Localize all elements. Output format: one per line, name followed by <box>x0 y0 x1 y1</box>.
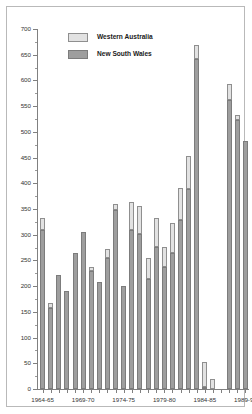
y-axis-label: 700 <box>21 26 31 32</box>
bar-segment-new-south-wales <box>81 232 86 389</box>
bar-segment-western-australia <box>186 156 191 190</box>
bar-column <box>243 29 248 389</box>
y-axis-label: 650 <box>21 52 31 58</box>
bar-column <box>137 29 142 389</box>
y-axis-label: 0 <box>28 386 31 392</box>
y-axis-tick <box>33 389 37 390</box>
bar-column <box>81 29 86 389</box>
y-axis-minor-tick <box>35 299 37 300</box>
bar-segment-western-australia <box>210 379 215 389</box>
x-axis-tick <box>164 390 165 393</box>
bar-column <box>154 29 159 389</box>
y-axis-minor-tick <box>35 145 37 146</box>
y-axis-label: 100 <box>21 334 31 340</box>
bar-segment-new-south-wales <box>170 253 175 389</box>
y-axis-label: 600 <box>21 77 31 83</box>
bar-column <box>64 29 69 389</box>
x-axis-tick <box>51 390 52 393</box>
bar-column <box>121 29 126 389</box>
x-axis-tick <box>197 390 198 393</box>
y-axis-minor-tick <box>35 119 37 120</box>
bar-column <box>97 29 102 389</box>
y-axis-tick <box>33 29 37 30</box>
bar-column <box>113 29 118 389</box>
bar-segment-western-australia <box>227 84 232 100</box>
x-axis-tick <box>132 390 133 393</box>
bar-segment-new-south-wales <box>186 189 191 389</box>
x-axis-label: 1984-85 <box>194 397 217 403</box>
y-axis-label: 300 <box>21 232 31 238</box>
x-axis-line <box>37 389 249 390</box>
bar-segment-new-south-wales <box>146 279 151 389</box>
y-axis-label: 500 <box>21 129 31 135</box>
chart-figure: Western Australia New South Wales 050100… <box>0 0 252 414</box>
bar-column <box>194 29 199 389</box>
x-axis-tick <box>107 390 108 393</box>
y-axis-label: 400 <box>21 180 31 186</box>
y-axis-minor-tick <box>35 350 37 351</box>
bar-column <box>56 29 61 389</box>
y-axis-minor-tick <box>35 93 37 94</box>
y-axis-label: 200 <box>21 283 31 289</box>
x-axis-label: 1974-75 <box>112 397 135 403</box>
plot-area: 0501001502002503003504004505005506006507… <box>37 29 248 389</box>
bar-segment-western-australia <box>178 188 183 220</box>
bar-column <box>146 29 151 389</box>
x-axis-label: 1964-65 <box>31 397 54 403</box>
y-axis-tick <box>33 338 37 339</box>
bar-column <box>105 29 110 389</box>
bar-column <box>235 29 240 389</box>
y-axis-tick <box>33 132 37 133</box>
y-axis-tick <box>33 55 37 56</box>
bar-segment-western-australia <box>113 204 118 210</box>
bar-segment-new-south-wales <box>235 120 240 389</box>
y-axis-tick <box>33 183 37 184</box>
x-axis-tick <box>237 390 238 393</box>
y-axis-minor-tick <box>35 196 37 197</box>
bar-segment-new-south-wales <box>178 220 183 389</box>
bar-segment-western-australia <box>162 247 167 267</box>
bar-segment-new-south-wales <box>40 230 45 389</box>
y-axis-label: 550 <box>21 103 31 109</box>
y-axis-tick <box>33 363 37 364</box>
y-axis-tick <box>33 106 37 107</box>
x-axis-tick <box>205 390 206 393</box>
bar-segment-new-south-wales <box>73 253 78 389</box>
y-axis-minor-tick <box>35 42 37 43</box>
y-axis-tick <box>33 80 37 81</box>
y-axis-minor-tick <box>35 376 37 377</box>
y-axis-minor-tick <box>35 273 37 274</box>
bar-segment-new-south-wales <box>97 282 102 389</box>
y-axis-tick <box>33 312 37 313</box>
bar-segment-new-south-wales <box>105 258 110 389</box>
bar-segment-western-australia <box>89 267 94 271</box>
bar-column <box>186 29 191 389</box>
y-axis-minor-tick <box>35 222 37 223</box>
y-axis-label: 150 <box>21 309 31 315</box>
x-axis-label: 1969-70 <box>72 397 95 403</box>
bar-segment-new-south-wales <box>154 247 159 389</box>
bar-column <box>178 29 183 389</box>
bar-segment-western-australia <box>235 115 240 119</box>
y-axis-label: 50 <box>24 360 31 366</box>
bar-column <box>210 29 215 389</box>
bar-segment-new-south-wales <box>48 308 53 389</box>
x-axis-tick <box>91 390 92 393</box>
bar-column <box>227 29 232 389</box>
y-axis-tick <box>33 260 37 261</box>
bar-segment-new-south-wales <box>162 267 167 389</box>
bar-segment-new-south-wales <box>56 275 61 389</box>
x-axis-tick <box>172 390 173 393</box>
bar-segment-western-australia <box>40 218 45 229</box>
x-axis-tick <box>181 390 182 393</box>
x-axis-tick <box>221 390 222 393</box>
x-axis-tick <box>245 390 246 393</box>
y-axis-minor-tick <box>35 170 37 171</box>
x-axis-label: 1979-80 <box>153 397 176 403</box>
x-axis-tick <box>116 390 117 393</box>
x-axis-tick <box>43 390 44 393</box>
bar-segment-western-australia <box>170 223 175 253</box>
bar-segment-new-south-wales <box>64 291 69 389</box>
bar-column <box>170 29 175 389</box>
bar-column <box>219 29 224 389</box>
